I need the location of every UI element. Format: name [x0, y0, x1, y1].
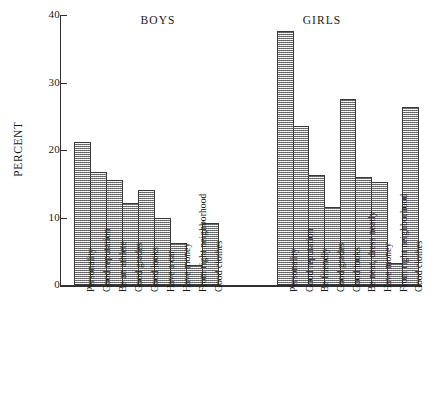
y-tick-mark [60, 15, 67, 16]
x-axis-label: Be friendly [320, 248, 330, 292]
bar [277, 31, 294, 285]
y-tick-label-wrap: 20 [26, 144, 60, 155]
y-tick-label: 0 [34, 279, 60, 290]
y-tick-label-wrap: 0 [26, 279, 60, 290]
x-axis-label: From right neighborhood [198, 194, 208, 292]
x-axis-label: Good reputation [102, 228, 112, 292]
y-tick-label: 20 [34, 144, 60, 155]
x-axis-label: Have money [182, 243, 192, 292]
x-axis-label: Good looks [150, 247, 160, 292]
x-axis-label: Good grades [336, 243, 346, 292]
x-axis-label: Be an athlete [118, 241, 128, 292]
x-axis-label: Good clothes [214, 240, 224, 292]
x-axis-label: Be neat, dress neatly [367, 211, 377, 292]
x-axis-label: Personality [289, 248, 299, 292]
x-axis-label: Good reputation [305, 228, 315, 292]
y-tick-label: 40 [34, 9, 60, 20]
bar-group-girls [277, 0, 418, 285]
x-axis-label: Good grades [134, 243, 144, 292]
y-tick-mark [60, 218, 67, 219]
y-tick-label-wrap: 30 [26, 77, 60, 88]
x-axis-label: Have a car [166, 250, 176, 292]
x-axis-label: Good clothes [414, 240, 424, 292]
y-tick-label: 10 [34, 212, 60, 223]
x-axis-label: Good looks [352, 247, 362, 292]
x-axis-label: Personality [86, 248, 96, 292]
x-axis-label: From right neighborhood [399, 194, 409, 292]
x-axis-label: Have money [383, 243, 393, 292]
y-axis-title: PERCENT [12, 109, 24, 189]
y-tick-mark [60, 150, 67, 151]
y-tick-label-wrap: 40 [26, 9, 60, 20]
y-tick-label: 30 [34, 77, 60, 88]
bar-chart: 010203040 PERCENT BOYS GIRLS Personality… [0, 0, 435, 418]
y-tick-label-wrap: 10 [26, 212, 60, 223]
y-tick-mark [60, 83, 67, 84]
bar-group-boys [74, 0, 218, 285]
